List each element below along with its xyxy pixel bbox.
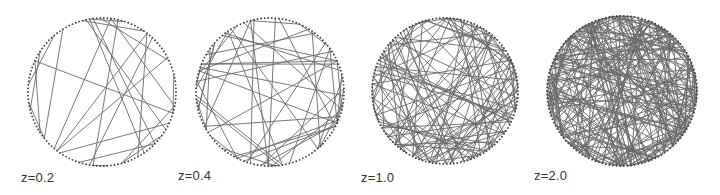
graph-node [573, 33, 575, 35]
graph-node [695, 79, 697, 81]
graph-node [151, 145, 153, 147]
graph-node [324, 42, 326, 44]
graph-node [143, 30, 145, 32]
graph-node [311, 152, 313, 154]
graph-node [195, 95, 197, 97]
graph-node [199, 116, 201, 118]
graph-node [637, 163, 639, 165]
graph-edge [90, 19, 144, 153]
graph-node [75, 160, 77, 162]
graph-node [340, 112, 342, 114]
graph-node [168, 60, 170, 62]
graph-node [230, 28, 232, 30]
graph-node [174, 80, 176, 82]
graph-node [96, 17, 98, 19]
graph-node [558, 49, 560, 51]
graph-node [233, 26, 235, 28]
graph-node [174, 105, 176, 107]
graph-node [585, 25, 587, 27]
graph-node [173, 73, 175, 75]
graph-node [236, 25, 238, 27]
graph-edge [649, 112, 694, 161]
graph-node [209, 48, 211, 50]
graph-node [486, 30, 488, 32]
graph-node [608, 16, 610, 18]
graph-node [322, 39, 324, 41]
graph-node [373, 108, 375, 110]
graph-node [686, 128, 688, 130]
graph-node [549, 112, 551, 114]
graph-edge [35, 61, 173, 113]
graph-node [327, 45, 329, 47]
graph-node [202, 60, 204, 62]
graph-node [134, 157, 136, 159]
graph-node [556, 52, 558, 54]
graph-node [394, 37, 396, 39]
graph-node [171, 116, 173, 118]
graph-node [623, 15, 625, 17]
graph-node [85, 19, 87, 21]
graph-node [114, 18, 116, 20]
graph-node [29, 109, 31, 111]
graph-node [209, 135, 211, 137]
graph-node [53, 148, 55, 150]
graph-node [343, 95, 345, 97]
graph-node [516, 76, 518, 78]
graph-node [39, 132, 41, 134]
graph-node [467, 159, 469, 161]
graph-node [27, 98, 29, 100]
graph-node [27, 95, 29, 97]
graph-node [285, 163, 287, 165]
graph-node [214, 42, 216, 44]
graph-node [505, 50, 507, 52]
graph-node [170, 119, 172, 121]
graph-node [165, 129, 167, 131]
graph-node [619, 165, 621, 167]
graph-node [463, 20, 465, 22]
graph-node [299, 159, 301, 161]
graph-node [378, 121, 380, 123]
graph-node [308, 28, 310, 30]
graph-node [480, 154, 482, 156]
graph-node [120, 162, 122, 164]
graph-node [510, 59, 512, 61]
graph-node [92, 18, 94, 20]
graph-node [343, 87, 345, 89]
graph-node [648, 160, 650, 162]
graph-node [204, 125, 206, 127]
graph-node [470, 22, 472, 24]
panel-label-z-0-2: z=0.2 [21, 171, 54, 184]
graph-node [503, 47, 505, 49]
graph-node [131, 23, 133, 25]
graph-edge [197, 51, 332, 81]
graph-node [397, 34, 399, 36]
graph-node [598, 161, 600, 163]
graph-node [37, 129, 39, 131]
graph-node [641, 18, 643, 20]
graph-node [456, 18, 458, 20]
graph-node [491, 34, 493, 36]
graph-node [207, 132, 209, 134]
graph-node [515, 73, 517, 75]
graph-node [372, 104, 374, 106]
graph-node [588, 157, 590, 159]
graph-node [137, 156, 139, 158]
graph-node [682, 46, 684, 48]
graph-node [412, 25, 414, 27]
graph-node [82, 20, 84, 22]
graph-node [137, 26, 139, 28]
graph-node [585, 156, 587, 158]
graph-node [260, 18, 262, 20]
graph-node [338, 63, 340, 65]
graph-node [336, 122, 338, 124]
graph-node [425, 160, 427, 162]
graph-node [383, 50, 385, 52]
graph-node [421, 159, 423, 161]
graph-node [372, 76, 374, 78]
graph-node [36, 125, 38, 127]
graph-node [257, 164, 259, 166]
graph-node [570, 145, 572, 147]
graph-node [630, 16, 632, 18]
graph-node [292, 21, 294, 23]
graph-node [550, 115, 552, 117]
